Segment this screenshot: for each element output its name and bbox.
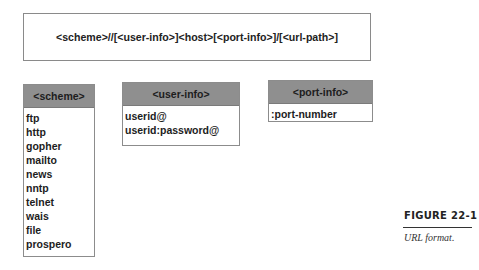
figure-divider — [403, 227, 472, 228]
url-format-string: <scheme>//[<user-info>]<host>[<port-info… — [56, 31, 338, 43]
port-info-table-header: <port-info> — [269, 81, 372, 104]
url-format-box: <scheme>//[<user-info>]<host>[<port-info… — [23, 13, 371, 61]
scheme-item: mailto — [26, 153, 92, 167]
scheme-item: prospero — [26, 237, 92, 251]
port-info-item: :port-number — [271, 107, 370, 121]
scheme-table-header: <scheme> — [24, 85, 94, 108]
figure-caption: URL format. — [404, 232, 454, 243]
user-info-table: <user-info> userid@ userid:password@ — [122, 82, 240, 146]
figure-label: FIGURE 22-1 — [404, 210, 477, 221]
user-info-item: userid@ — [125, 109, 237, 123]
scheme-item: nntp — [26, 181, 92, 195]
user-info-table-header: <user-info> — [123, 83, 239, 106]
scheme-item: wais — [26, 209, 92, 223]
user-info-item: userid:password@ — [125, 123, 237, 137]
scheme-table-body: ftp http gopher mailto news nntp telnet … — [24, 108, 94, 253]
scheme-item: file — [26, 223, 92, 237]
port-info-table-body: :port-number — [269, 104, 372, 123]
scheme-item: ftp — [26, 111, 92, 125]
scheme-item: news — [26, 167, 92, 181]
port-info-table: <port-info> :port-number — [268, 80, 373, 122]
scheme-item: telnet — [26, 195, 92, 209]
user-info-table-body: userid@ userid:password@ — [123, 106, 239, 139]
scheme-item: http — [26, 125, 92, 139]
scheme-item: gopher — [26, 139, 92, 153]
scheme-table: <scheme> ftp http gopher mailto news nnt… — [23, 84, 95, 257]
